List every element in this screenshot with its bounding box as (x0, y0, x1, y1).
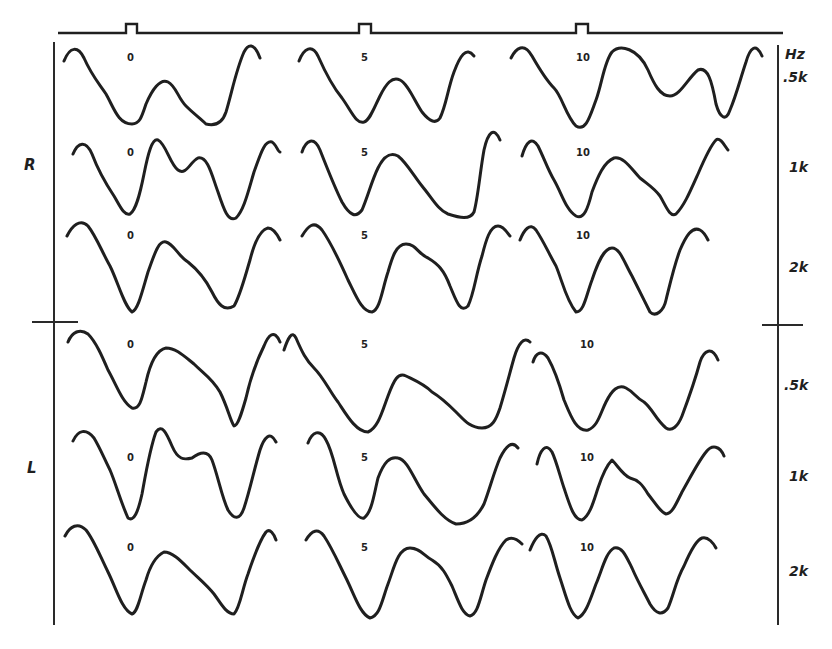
waveform-r-1k-10 (522, 139, 728, 217)
right-ear-label: R (24, 156, 36, 174)
waveform-l-.5k-0 (68, 331, 280, 426)
waveform-r-1k-5 (302, 132, 500, 217)
frequency-label-l-2k: 2k (789, 563, 808, 579)
column-label: 0 (127, 452, 134, 463)
column-label: 5 (361, 542, 368, 553)
column-label: 0 (127, 339, 134, 350)
waveform-r-.5k-0 (64, 46, 260, 125)
column-label: 5 (361, 339, 368, 350)
waveform-r-.5k-10 (511, 48, 762, 128)
waveform-traces (64, 46, 762, 618)
column-label: 5 (361, 52, 368, 63)
column-label: 0 (127, 52, 134, 63)
waveform-l-1k-10 (537, 447, 724, 520)
column-label: 10 (576, 147, 590, 158)
column-label: 5 (361, 230, 368, 241)
column-label: 10 (576, 230, 590, 241)
column-label: 0 (127, 230, 134, 241)
hz-unit-label: Hz (785, 46, 805, 62)
column-label: 10 (580, 542, 594, 553)
frequency-label-l-1k: 1k (789, 468, 808, 484)
frequency-label-l-0.5k: .5k (784, 377, 808, 393)
waveform-l-1k-5 (308, 433, 518, 524)
column-label: 5 (361, 452, 368, 463)
column-label: 10 (580, 452, 594, 463)
frequency-label-r-1k: 1k (789, 159, 808, 175)
column-label: 5 (361, 147, 368, 158)
frequency-label-r-0.5k: .5k (783, 69, 807, 85)
waveform-plot (0, 0, 832, 649)
waveform-l-1k-0 (73, 429, 276, 519)
left-ear-label: L (27, 459, 37, 477)
waveform-r-2k-10 (520, 227, 708, 314)
waveform-r-2k-0 (67, 223, 280, 312)
waveform-r-1k-0 (73, 140, 280, 219)
column-label: 0 (127, 147, 134, 158)
column-label: 10 (576, 52, 590, 63)
waveform-figure: R L Hz .5k 1k 2k .5k 1k 2k 0510051005100… (0, 0, 832, 649)
waveform-l-2k-0 (65, 526, 276, 614)
waveform-l-.5k-10 (533, 351, 718, 430)
waveform-l-2k-5 (306, 531, 522, 618)
frequency-label-r-2k: 2k (789, 259, 808, 275)
column-label: 0 (127, 542, 134, 553)
waveform-l-.5k-5 (284, 335, 530, 432)
column-label: 10 (580, 339, 594, 350)
waveform-r-2k-5 (302, 225, 510, 312)
waveform-l-2k-10 (530, 534, 716, 618)
stimulus-marker-line (58, 24, 783, 33)
waveform-r-.5k-5 (299, 49, 474, 122)
